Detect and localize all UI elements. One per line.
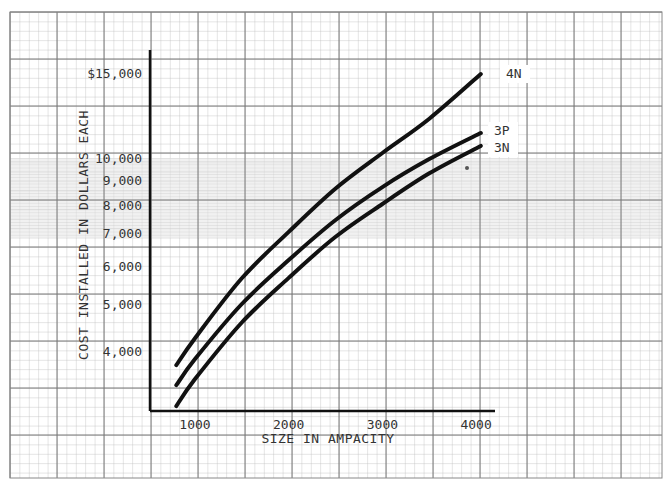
x-axis-title: SIZE IN AMPACITY — [261, 431, 394, 446]
stray-dot — [465, 166, 469, 170]
series-label-3p: 3P — [494, 123, 510, 138]
y-tick-label: $15,000 — [87, 66, 142, 81]
y-tick-label: 7,000 — [103, 226, 142, 241]
x-tick-label: 2000 — [273, 417, 304, 432]
y-axis-title: COST INSTALLED IN DOLLARS EACH — [76, 110, 91, 360]
chart: 4,0005,0006,0007,0008,0009,00010,000$15,… — [0, 0, 669, 488]
x-tick-label: 3000 — [367, 417, 398, 432]
y-tick-label: 4,000 — [103, 344, 142, 359]
graph-paper — [10, 12, 662, 478]
series-label-3n: 3N — [494, 140, 510, 155]
y-tick-label: 8,000 — [103, 198, 142, 213]
y-tick-label: 5,000 — [103, 297, 142, 312]
y-tick-label: 6,000 — [103, 259, 142, 274]
y-tick-label: 9,000 — [103, 173, 142, 188]
y-tick-label: 10,000 — [95, 151, 142, 166]
x-tick-label: 4000 — [460, 417, 491, 432]
x-tick-label: 1000 — [179, 417, 210, 432]
series-label-4n: 4N — [506, 66, 522, 81]
